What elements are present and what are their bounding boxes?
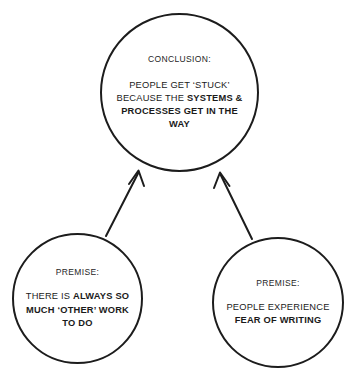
node-premise-right-header: PREMISE: <box>256 278 299 288</box>
node-conclusion: CONCLUSION: PEOPLE GET ‘STUCK’ BECAUSE T… <box>100 13 259 172</box>
node-premise-left: PREMISE: THERE IS ALWAYS SO MUCH ‘OTHER’… <box>12 233 143 364</box>
edge-premise-right-to-conclusion <box>214 173 252 240</box>
edge-premise-left-to-conclusion <box>106 171 144 237</box>
node-premise-right: PREMISE: PEOPLE EXPERIENCE FEAR OF WRITI… <box>212 237 344 368</box>
argument-diagram: CONCLUSION: PEOPLE GET ‘STUCK’ BECAUSE T… <box>0 0 357 378</box>
node-premise-right-body: PEOPLE EXPERIENCE FEAR OF WRITING <box>212 301 344 327</box>
emphasis-run: FEAR OF WRITING <box>235 315 322 325</box>
plain-run: PEOPLE EXPERIENCE <box>226 302 329 312</box>
node-premise-left-header: PREMISE: <box>56 267 99 277</box>
node-conclusion-header: CONCLUSION: <box>148 54 211 64</box>
plain-run: THERE IS <box>26 291 73 301</box>
node-premise-left-body: THERE IS ALWAYS SO MUCH ‘OTHER’ WORK TO … <box>16 290 140 330</box>
node-conclusion-body: PEOPLE GET ‘STUCK’ BECAUSE THE SYSTEMS &… <box>110 79 250 132</box>
